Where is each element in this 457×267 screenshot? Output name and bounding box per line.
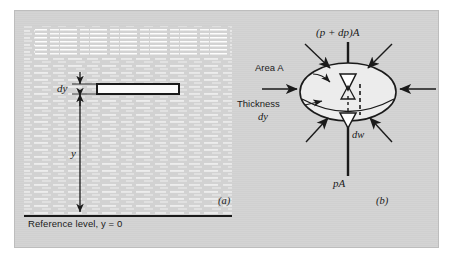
label-area: Area A (255, 63, 284, 73)
figure-root: dy y Reference level, y = 0 (a) (p + dp)… (0, 0, 457, 267)
panel-a-group (24, 26, 232, 216)
label-weight: dw (352, 130, 364, 141)
label-dy: dy (57, 83, 67, 94)
panel-label-a: (a) (218, 196, 230, 207)
panel-label-b: (b) (376, 196, 388, 207)
pressure-arrow-top-right (368, 44, 392, 68)
label-top-force: (p + dp)A (316, 27, 359, 38)
panel-b-group (262, 42, 436, 176)
label-reference-level: Reference level, y = 0 (28, 219, 122, 229)
label-y: y (71, 148, 76, 159)
label-bottom-force: pA (333, 178, 345, 189)
label-thickness: Thickness (237, 99, 280, 109)
pressure-arrow-bottom-right (370, 118, 392, 142)
slab-element (97, 84, 179, 94)
liquid-surface-band (35, 27, 230, 57)
pressure-arrow-bottom-left (306, 118, 328, 142)
pressure-arrow-top-left (305, 44, 330, 68)
label-thickness-dy: dy (258, 112, 268, 123)
